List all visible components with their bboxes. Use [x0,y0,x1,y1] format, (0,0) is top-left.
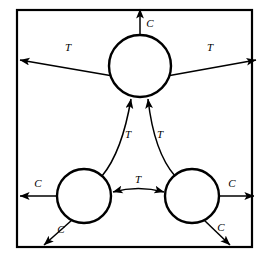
node-bottom-left[interactable] [57,169,111,223]
node-link-diagram: C T T T T T C C C C [0,0,271,263]
label-top-out-left: T [65,41,72,53]
label-bottom-right-out-down: C [217,221,225,233]
label-bottom-left-to-top: T [125,128,132,140]
label-bottom-right-out-right: C [228,177,236,189]
label-bottom-right-to-top: T [157,128,164,140]
label-bottom-left-out-left: C [34,177,42,189]
node-top[interactable] [109,35,171,97]
label-top-out-up: C [146,17,154,29]
node-bottom-right[interactable] [165,169,219,223]
diagram-canvas: C T T T T T C C C C [0,0,271,263]
edge-bottom-pair-bidirectional [113,189,164,193]
edge-top-out-right [167,60,256,76]
edge-top-out-left [20,60,113,76]
label-bottom-pair-bidirectional: T [135,173,142,185]
label-bottom-left-out-down: C [57,223,65,235]
label-top-out-right: T [207,41,214,53]
